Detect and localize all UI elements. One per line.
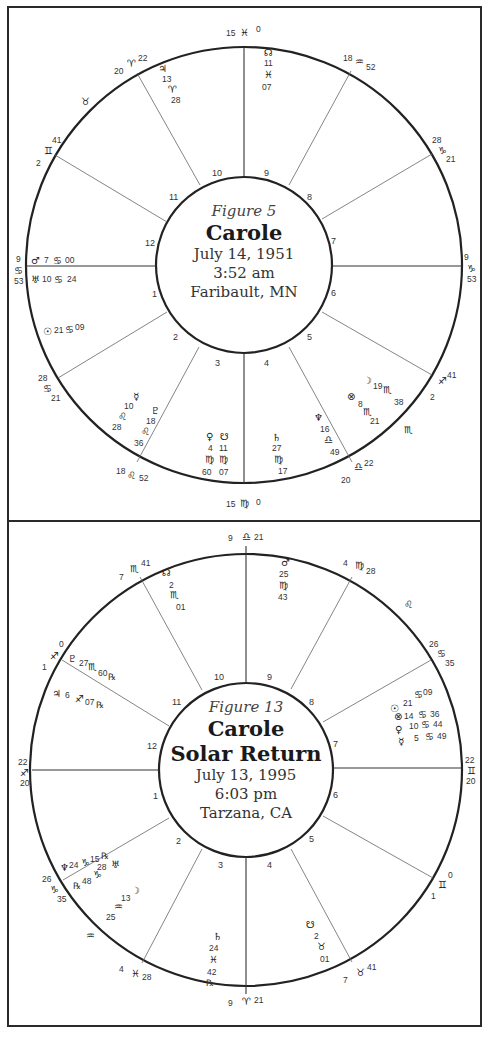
svg-text:07: 07 [85, 697, 95, 707]
house-2: 2 [176, 836, 181, 846]
svg-text:48: 48 [82, 876, 92, 886]
svg-text:1: 1 [42, 662, 47, 672]
house-12: 12 [147, 741, 157, 751]
svg-text:♍: ♍ [279, 580, 288, 591]
svg-text:4: 4 [343, 558, 348, 568]
planet-saturn: ♄ 24 ♓ 42 ℞ [206, 931, 222, 988]
svg-text:26: 26 [42, 874, 52, 884]
svg-text:20: 20 [20, 778, 30, 788]
svg-text:♄: ♄ [213, 931, 222, 942]
svg-text:43: 43 [278, 592, 288, 602]
svg-text:♋: ♋ [425, 731, 434, 742]
svg-text:♏: ♏ [130, 563, 139, 574]
svg-text:♃: ♃ [52, 688, 61, 699]
svg-text:41: 41 [141, 558, 151, 568]
svg-text:25: 25 [279, 569, 289, 579]
svg-text:28: 28 [142, 972, 152, 982]
svg-text:☽: ☽ [131, 885, 140, 896]
svg-text:℞: ℞ [73, 881, 81, 891]
svg-text:℞: ℞ [96, 700, 104, 710]
svg-text:24: 24 [209, 943, 219, 953]
svg-text:♓: ♓ [131, 968, 140, 979]
planet-south-node: ☋ 2 ♉ 01 [306, 919, 330, 964]
svg-text:21: 21 [403, 698, 413, 708]
svg-text:01: 01 [176, 602, 186, 612]
svg-text:♈: ♈ [242, 996, 251, 1007]
svg-text:♉: ♉ [317, 941, 326, 952]
planet-mercury: ☿ 5 ♋ 49 [398, 731, 447, 747]
svg-text:♐: ♐ [50, 650, 59, 661]
svg-text:10: 10 [409, 721, 419, 731]
svg-text:♒: ♒ [114, 901, 123, 912]
svg-text:♐: ♐ [75, 693, 84, 704]
svg-text:22: 22 [465, 755, 475, 765]
svg-text:0: 0 [59, 639, 64, 649]
svg-text:☋: ☋ [306, 919, 315, 930]
svg-text:22: 22 [18, 757, 28, 767]
svg-text:15: 15 [90, 854, 100, 864]
svg-text:♓: ♓ [209, 954, 218, 965]
svg-text:41: 41 [367, 962, 377, 972]
planet-pluto: ♇ 27 ♏ 60 ℞ [68, 653, 116, 682]
svg-text:♋: ♋ [414, 689, 423, 700]
svg-text:♊: ♊ [467, 765, 476, 776]
svg-text:21: 21 [254, 995, 264, 1005]
chart-subtitle: Solar Return [158, 741, 334, 766]
svg-text:35: 35 [445, 658, 455, 668]
svg-text:♏: ♏ [170, 589, 179, 600]
house-9: 9 [267, 672, 272, 682]
svg-text:☊: ☊ [162, 567, 171, 578]
svg-text:28: 28 [366, 566, 376, 576]
svg-text:9: 9 [228, 533, 233, 543]
svg-text:7: 7 [343, 975, 348, 985]
svg-text:1: 1 [431, 891, 436, 901]
figure-label: Figure 13 [158, 698, 334, 716]
svg-text:20: 20 [466, 776, 476, 786]
planet-uranus: ♅ 28 ♑ 15 ℞ [90, 851, 120, 880]
svg-text:♐: ♐ [20, 767, 29, 778]
svg-text:14: 14 [404, 711, 414, 721]
svg-text:℞: ℞ [101, 851, 109, 861]
svg-text:09: 09 [423, 687, 433, 697]
svg-text:21: 21 [254, 532, 264, 542]
chart-place: Tarzana, CA [158, 804, 334, 823]
svg-text:℞: ℞ [206, 978, 214, 988]
figure-13-chart-wheel: 1 2 3 4 5 6 7 8 9 10 11 12 9 ♎ 21 7 ♏ 41… [0, 0, 494, 1045]
svg-text:♍: ♍ [355, 560, 364, 571]
svg-text:♑: ♑ [81, 857, 90, 868]
planet-north-node: ☊ 2 ♏ 01 [162, 567, 186, 612]
svg-text:36: 36 [430, 709, 440, 719]
svg-text:♂: ♂ [281, 557, 290, 568]
svg-text:⊗: ⊗ [394, 711, 402, 722]
svg-text:♆: ♆ [60, 862, 69, 873]
svg-text:2: 2 [314, 931, 319, 941]
chart-subject-name: Carole [158, 716, 334, 741]
svg-text:♏: ♏ [88, 661, 97, 672]
svg-text:0: 0 [448, 870, 453, 880]
svg-text:☿: ☿ [398, 736, 404, 747]
chart-date: July 13, 1995 [158, 766, 334, 785]
svg-text:♀: ♀ [395, 724, 402, 735]
house-5: 5 [309, 834, 314, 844]
planet-moon: ☽ 13 ♒ 25 [106, 885, 140, 922]
intercepted-leo: ♌ [404, 599, 413, 610]
svg-text:℞: ℞ [108, 672, 116, 682]
svg-text:♇: ♇ [68, 653, 77, 664]
svg-text:49: 49 [437, 731, 447, 741]
svg-text:24: 24 [69, 860, 79, 870]
svg-text:7: 7 [119, 572, 124, 582]
svg-text:♋: ♋ [421, 719, 430, 730]
svg-text:♊: ♊ [438, 879, 447, 890]
svg-text:5: 5 [414, 733, 419, 743]
intercepted-aquarius: ♒ [86, 930, 95, 941]
svg-text:♎: ♎ [242, 531, 251, 542]
svg-text:9: 9 [228, 998, 233, 1008]
svg-text:♉: ♉ [356, 967, 365, 978]
svg-text:♅: ♅ [111, 859, 120, 870]
svg-text:25: 25 [106, 912, 116, 922]
svg-text:6: 6 [65, 690, 70, 700]
svg-text:35: 35 [57, 894, 67, 904]
svg-text:01: 01 [320, 954, 330, 964]
house-3: 3 [218, 860, 223, 870]
house-10: 10 [214, 672, 224, 682]
